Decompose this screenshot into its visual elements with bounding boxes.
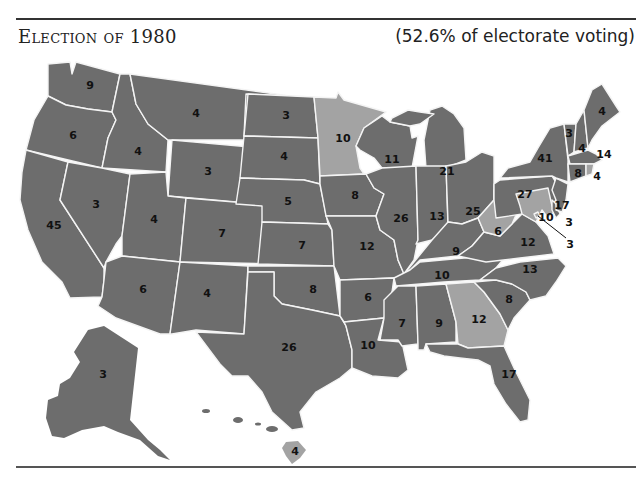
label-VA: 12: [520, 236, 535, 249]
label-MA: 14: [596, 148, 612, 161]
state-NY: [500, 124, 568, 182]
label-LA: 10: [360, 339, 376, 352]
label-AK: 3: [99, 368, 107, 381]
label-HI: 4: [291, 445, 299, 458]
bottom-rule: [16, 466, 636, 468]
label-MO: 12: [359, 240, 374, 253]
label-KY: 9: [452, 245, 460, 258]
label-WA: 9: [86, 79, 94, 92]
label-OR: 6: [69, 129, 77, 142]
label-TN: 10: [434, 269, 450, 282]
label-WY: 3: [204, 165, 212, 178]
label-NY: 41: [537, 152, 552, 165]
label-IN: 13: [429, 210, 444, 223]
hawaii-island-small-2: [233, 417, 243, 423]
label-SD: 4: [280, 150, 288, 163]
label-MI: 21: [439, 165, 454, 178]
label-CT: 8: [574, 167, 582, 180]
label-WV: 6: [494, 225, 502, 238]
label-TX: 26: [281, 341, 297, 354]
state-AK: [46, 326, 170, 460]
label-AL: 9: [435, 317, 443, 330]
label-KS: 7: [298, 239, 306, 252]
label-PA: 27: [517, 188, 532, 201]
state-ND2: [244, 94, 318, 138]
label-ID: 4: [134, 145, 142, 158]
label-NE: 5: [284, 195, 292, 208]
label-MS: 7: [398, 317, 406, 330]
label-RI: 4: [593, 170, 601, 183]
label-OH: 25: [465, 205, 480, 218]
label-MD: 10: [538, 211, 554, 224]
label-MT: 4: [192, 107, 200, 120]
label-AR: 6: [364, 291, 372, 304]
label-CO: 7: [218, 227, 226, 240]
label-AZ: 6: [139, 283, 147, 296]
label-SC: 8: [505, 293, 513, 306]
label-DC: 3: [566, 238, 574, 251]
label-VT: 3: [565, 127, 573, 140]
label-MN: 10: [335, 132, 351, 145]
hawaii-island-small-1: [202, 409, 210, 413]
label-IL: 26: [393, 212, 409, 225]
label-ND: 3: [282, 109, 290, 122]
label-UT: 4: [150, 213, 158, 226]
label-OK: 8: [309, 283, 317, 296]
label-CA: 45: [46, 219, 61, 232]
us-electoral-map: 9 6 45 4 3 4 3 4 6 7 4 3 4 5 7 8 26 10 8…: [0, 0, 643, 480]
label-NM: 4: [203, 287, 211, 300]
label-NJ: 17: [554, 199, 569, 212]
label-IA: 8: [351, 189, 359, 202]
label-FL: 17: [501, 368, 516, 381]
label-DE: 3: [565, 216, 573, 229]
state-FL: [426, 344, 530, 422]
hawaii-island-small-3: [255, 423, 261, 426]
hawaii-island-small-4: [266, 426, 278, 432]
label-WI: 11: [384, 153, 399, 166]
label-ME: 4: [598, 105, 606, 118]
label-NC: 13: [522, 263, 537, 276]
label-NV: 3: [92, 198, 100, 211]
state-KS: [258, 222, 334, 266]
label-GA: 12: [471, 313, 486, 326]
label-NH: 4: [578, 142, 586, 155]
